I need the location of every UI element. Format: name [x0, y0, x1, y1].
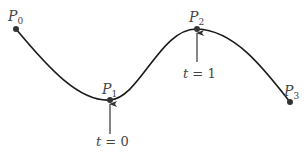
label-t0: t = 0: [96, 134, 129, 149]
control-point-p3: [287, 99, 293, 105]
label-p1: P1: [101, 81, 117, 99]
spline-diagram: P0 P1 P2 P3 t = 0 t = 1: [0, 0, 307, 157]
label-p3: P3: [283, 83, 299, 101]
label-t1: t = 1: [183, 66, 216, 81]
spline-curve: [16, 29, 290, 102]
label-p2: P2: [188, 9, 204, 27]
control-point-p0: [13, 26, 19, 32]
label-p0: P0: [7, 8, 23, 26]
